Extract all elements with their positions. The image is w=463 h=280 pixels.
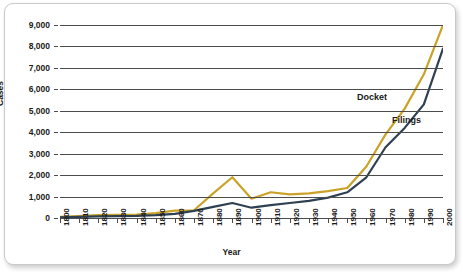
y-tick-mark	[54, 111, 58, 112]
y-tick-label: 9,000	[6, 21, 50, 30]
y-tick-mark	[54, 89, 58, 90]
series-label-docket: Docket	[357, 92, 387, 102]
x-tick-mark	[328, 218, 329, 223]
y-tick-mark	[54, 68, 58, 69]
gridline	[60, 25, 443, 26]
x-tick-mark	[424, 218, 425, 223]
x-tick-mark	[137, 218, 138, 223]
x-tick-label: 1950	[350, 208, 358, 226]
x-tick-label: 1900	[255, 208, 263, 226]
y-tick-label: 1,000	[6, 193, 50, 202]
y-tick-mark	[54, 175, 58, 176]
x-tick-mark	[290, 218, 291, 223]
y-tick-mark	[54, 154, 58, 155]
x-tick-mark	[156, 218, 157, 223]
x-tick-mark	[309, 218, 310, 223]
y-tick-label: 0	[6, 214, 50, 223]
gridline	[60, 68, 443, 69]
x-tick-mark	[405, 218, 406, 223]
x-tick-label: 1980	[408, 208, 416, 226]
y-tick-mark	[54, 25, 58, 26]
x-tick-label: 1810	[82, 208, 90, 226]
y-tick-label: 8,000	[6, 42, 50, 51]
x-tick-label: 2000	[446, 208, 454, 226]
x-tick-mark	[252, 218, 253, 223]
x-tick-label: 1890	[235, 208, 243, 226]
gridline	[60, 89, 443, 90]
y-tick-mark	[54, 218, 58, 219]
x-tick-mark	[194, 218, 195, 223]
x-tick-label: 1940	[331, 208, 339, 226]
plot-area	[60, 25, 443, 218]
chart-figure: Cases 01,0002,0003,0004,0005,0006,0007,0…	[0, 0, 463, 280]
series-label-filings: Filings	[392, 115, 421, 125]
x-tick-label: 1860	[178, 208, 186, 226]
x-tick-mark	[175, 218, 176, 223]
x-tick-label: 1870	[197, 208, 205, 226]
x-tick-label: 1970	[389, 208, 397, 226]
y-tick-label: 6,000	[6, 85, 50, 94]
gridline	[60, 46, 443, 47]
x-tick-mark	[79, 218, 80, 223]
y-tick-mark	[54, 46, 58, 47]
series-line-docket	[60, 25, 443, 217]
gridline	[60, 197, 443, 198]
y-tick-mark	[54, 132, 58, 133]
x-tick-label: 1920	[293, 208, 301, 226]
x-tick-label: 1840	[140, 208, 148, 226]
x-tick-mark	[443, 218, 444, 223]
y-tick-label: 3,000	[6, 150, 50, 159]
x-tick-label: 1990	[427, 208, 435, 226]
y-tick-label: 5,000	[6, 107, 50, 116]
y-tick-label: 7,000	[6, 64, 50, 73]
x-tick-mark	[386, 218, 387, 223]
x-axis-title: Year	[0, 247, 463, 257]
series-lines	[60, 25, 443, 218]
gridline	[60, 154, 443, 155]
x-tick-label: 1830	[120, 208, 128, 226]
x-tick-label: 1820	[101, 208, 109, 226]
x-tick-label: 1930	[312, 208, 320, 226]
gridline	[60, 111, 443, 112]
gridline	[60, 132, 443, 133]
x-tick-label: 1880	[216, 208, 224, 226]
gridline	[60, 175, 443, 176]
y-tick-mark	[54, 197, 58, 198]
x-tick-label: 1960	[369, 208, 377, 226]
x-tick-label: 1850	[159, 208, 167, 226]
y-tick-label: 2,000	[6, 171, 50, 180]
y-tick-label: 4,000	[6, 128, 50, 137]
x-tick-label: 1910	[274, 208, 282, 226]
x-tick-mark	[60, 218, 61, 223]
x-tick-mark	[271, 218, 272, 223]
x-tick-label: 1800	[63, 208, 71, 226]
y-axis-title: Cases	[0, 81, 5, 106]
